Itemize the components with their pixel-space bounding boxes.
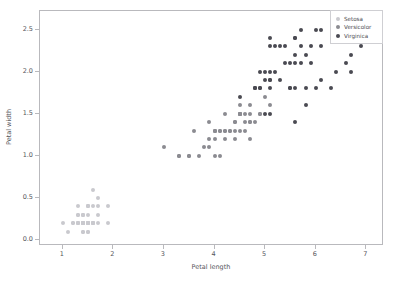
data-point-versicolor <box>207 145 211 149</box>
data-point-virginica <box>293 36 297 40</box>
data-point-virginica <box>299 44 303 48</box>
data-point-virginica <box>293 120 297 124</box>
data-point-setosa <box>76 213 80 217</box>
data-point-virginica <box>309 44 313 48</box>
data-point-versicolor <box>248 137 252 141</box>
data-point-versicolor <box>213 137 217 141</box>
data-point-virginica <box>283 61 287 65</box>
data-point-virginica <box>314 86 318 90</box>
data-point-virginica <box>319 28 323 32</box>
data-point-virginica <box>304 53 308 57</box>
data-point-virginica <box>268 36 272 40</box>
x-tick-mark <box>112 245 113 249</box>
data-point-virginica <box>304 86 308 90</box>
y-tick-label: 1.0 <box>23 151 33 159</box>
data-point-virginica <box>349 53 353 57</box>
data-point-versicolor <box>243 129 247 133</box>
data-point-virginica <box>273 70 277 74</box>
data-point-versicolor <box>187 154 191 158</box>
legend-item-setosa[interactable]: Setosa <box>333 15 379 23</box>
data-point-versicolor <box>248 103 252 107</box>
data-point-versicolor <box>218 154 222 158</box>
data-point-virginica <box>283 44 287 48</box>
data-point-versicolor <box>213 154 217 158</box>
data-point-virginica <box>238 95 242 99</box>
x-tick-label: 6 <box>313 250 317 258</box>
data-point-virginica <box>293 61 297 65</box>
x-tick-mark <box>365 245 366 249</box>
data-point-versicolor <box>223 112 227 116</box>
data-point-setosa <box>96 196 100 200</box>
data-point-setosa <box>106 204 110 208</box>
data-point-setosa <box>96 204 100 208</box>
y-tick-label: 0.5 <box>23 193 33 201</box>
data-point-virginica <box>304 103 308 107</box>
x-tick-label: 7 <box>363 250 367 258</box>
legend-label: Versicolor <box>344 23 371 31</box>
data-point-virginica <box>334 70 338 74</box>
x-tick-mark <box>264 245 265 249</box>
data-point-virginica <box>268 70 272 74</box>
data-point-setosa <box>96 213 100 217</box>
x-tick-label: 5 <box>262 250 266 258</box>
data-point-virginica <box>263 78 267 82</box>
data-point-versicolor <box>268 103 272 107</box>
data-point-virginica <box>293 53 297 57</box>
data-point-virginica <box>288 61 292 65</box>
data-point-virginica <box>309 61 313 65</box>
data-point-virginica <box>293 86 297 90</box>
data-point-versicolor <box>207 137 211 141</box>
y-tick-label: 2.5 <box>23 25 33 33</box>
data-point-versicolor <box>238 112 242 116</box>
plot-area <box>39 10 383 245</box>
data-point-setosa <box>91 204 95 208</box>
x-tick-label: 2 <box>110 250 114 258</box>
data-point-versicolor <box>248 120 252 124</box>
data-point-setosa <box>66 230 70 234</box>
x-tick-mark <box>62 245 63 249</box>
legend-marker-icon <box>336 17 340 21</box>
data-point-virginica <box>273 44 277 48</box>
x-tick-mark <box>214 245 215 249</box>
data-point-virginica <box>359 44 363 48</box>
data-point-versicolor <box>197 154 201 158</box>
data-point-versicolor <box>263 95 267 99</box>
data-points-layer <box>40 11 382 244</box>
data-point-setosa <box>81 213 85 217</box>
data-point-versicolor <box>233 120 237 124</box>
x-tick-label: 1 <box>60 250 64 258</box>
y-tick-label: 0.0 <box>23 235 33 243</box>
y-tick-label: 1.5 <box>23 109 33 117</box>
data-point-setosa <box>106 221 110 225</box>
data-point-versicolor <box>162 145 166 149</box>
data-point-virginica <box>253 86 257 90</box>
data-point-setosa <box>86 230 90 234</box>
data-point-virginica <box>263 112 267 116</box>
legend-item-versicolor[interactable]: Versicolor <box>333 23 379 31</box>
data-point-virginica <box>299 61 303 65</box>
legend-marker-icon <box>336 34 340 38</box>
data-point-setosa <box>86 213 90 217</box>
data-point-setosa <box>76 204 80 208</box>
x-tick-mark <box>163 245 164 249</box>
data-point-versicolor <box>253 120 257 124</box>
data-point-virginica <box>268 78 272 82</box>
data-point-virginica <box>263 70 267 74</box>
data-point-setosa <box>76 221 80 225</box>
data-point-setosa <box>86 221 90 225</box>
data-point-virginica <box>258 70 262 74</box>
data-point-versicolor <box>243 120 247 124</box>
data-point-versicolor <box>238 129 242 133</box>
data-point-virginica <box>314 28 318 32</box>
data-point-virginica <box>319 44 323 48</box>
data-point-versicolor <box>243 112 247 116</box>
data-point-virginica <box>344 61 348 65</box>
y-axis-title: Petal width <box>5 109 13 145</box>
data-point-versicolor <box>223 137 227 141</box>
legend-item-virginica[interactable]: Virginica <box>333 32 379 40</box>
data-point-virginica <box>299 28 303 32</box>
data-point-virginica <box>278 44 282 48</box>
legend-marker-icon <box>336 25 340 29</box>
data-point-versicolor <box>258 112 262 116</box>
data-point-versicolor <box>223 129 227 133</box>
